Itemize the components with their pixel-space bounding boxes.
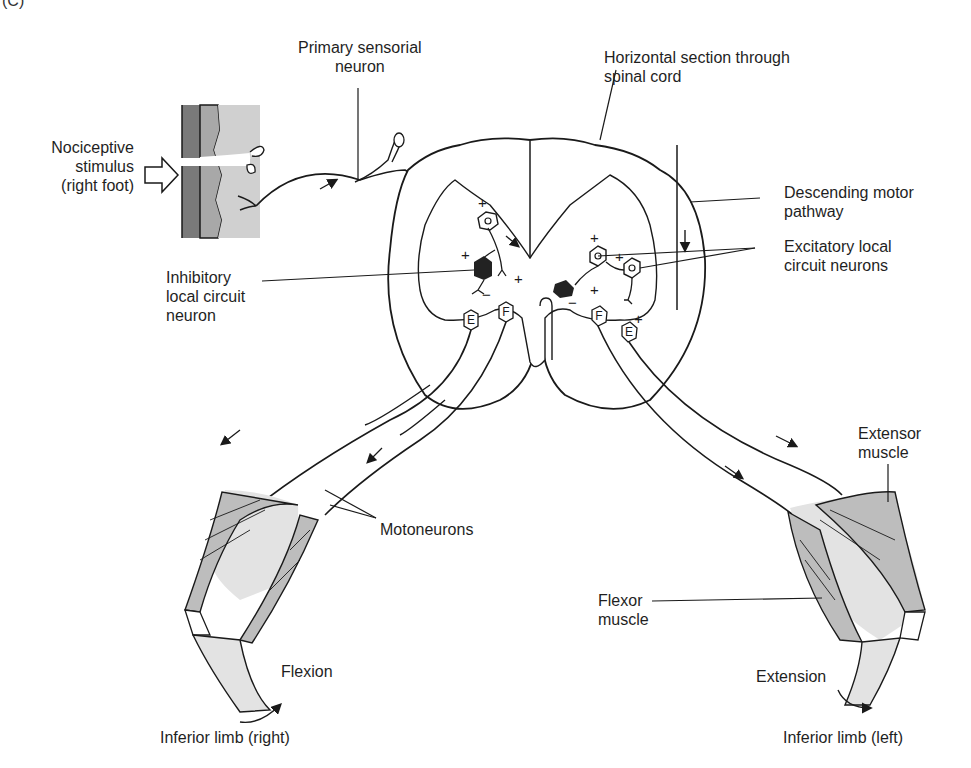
svg-text:+: + [461, 246, 470, 263]
right-limb-flexion [185, 490, 318, 722]
label-excitatory-neurons: Excitatory local circuit neurons [784, 237, 892, 275]
label-inhibitory-neuron: Inhibitory local circuit neuron [166, 268, 245, 325]
label-descending-motor-pathway: Descending motor pathway [784, 183, 914, 221]
label-motoneurons: Motoneurons [380, 520, 473, 539]
label-flexion: Flexion [281, 662, 333, 681]
label-extensor-muscle: Extensor muscle [858, 424, 921, 462]
label-primary-sensory-neuron: Primary sensorial neuron [298, 38, 422, 76]
svg-text:+: + [590, 281, 599, 298]
svg-text:F: F [595, 309, 602, 323]
label-flexor-muscle: Flexor muscle [598, 591, 649, 629]
label-inferior-limb-left: Inferior limb (left) [783, 728, 903, 747]
svg-text:E: E [467, 313, 475, 327]
svg-text:+: + [478, 194, 487, 211]
svg-text:−: − [482, 286, 491, 303]
svg-text:+: + [615, 248, 624, 265]
svg-text:E: E [625, 325, 633, 339]
label-nociceptive-stimulus: Nociceptive stimulus (right foot) [22, 138, 134, 195]
svg-text:−: − [568, 294, 577, 311]
stimulus-arrow-icon [145, 158, 178, 192]
svg-text:+: + [634, 310, 643, 327]
svg-text:+: + [514, 270, 523, 287]
svg-text:F: F [502, 305, 509, 319]
label-inferior-limb-right: Inferior limb (right) [160, 728, 290, 747]
reflex-arc-diagram: + + + − + + + − + E F F E [0, 0, 971, 768]
label-extension: Extension [756, 667, 826, 686]
label-spinal-section: Horizontal section through spinal cord [604, 48, 790, 86]
svg-text:+: + [590, 229, 599, 246]
